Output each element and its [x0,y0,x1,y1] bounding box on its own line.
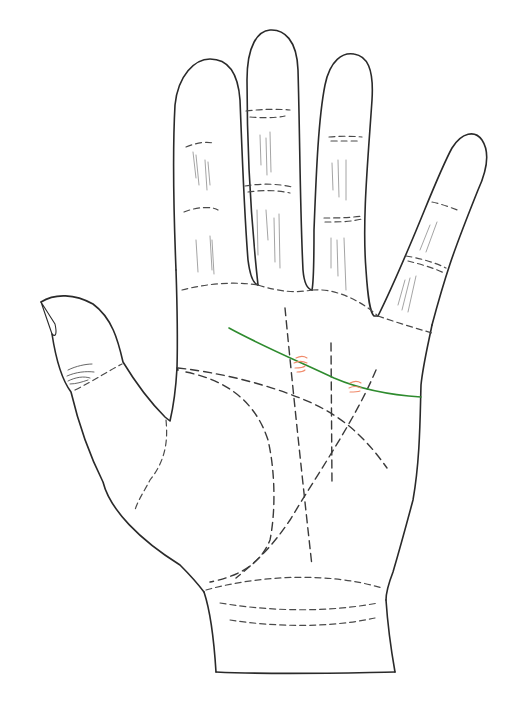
wrist-right-edge [386,600,395,672]
little-upper-crease [432,202,460,211]
sun-line [331,343,332,485]
palm-diagram [0,0,517,712]
little-lower-crease-b [408,261,444,273]
middle-upper-crease-b [250,116,285,118]
fate-line [285,308,312,566]
hand-outline [41,30,487,674]
middle-upper-crease-a [246,109,290,111]
break-marker-2 [349,382,361,393]
finger-joint-creases [184,109,460,273]
thumb-lower-edge [52,334,204,592]
thumb-mount-crease [135,420,167,510]
index-lower-crease [184,208,218,212]
heart-line-highlight [229,328,421,397]
middle-lower-crease-b [248,191,290,193]
ring-upper-crease-a [329,136,362,137]
life-line [186,372,274,582]
thumb-creases [67,364,122,390]
thumb-outline [41,296,178,421]
thumbnail [41,302,56,335]
head-line [178,368,387,468]
little-finger-base-crease [378,316,432,333]
ring-finger-outline [312,54,378,316]
wrist-bottom-edge [216,672,395,674]
finger-base-crease-left [182,283,258,290]
finger-base-crease-mid [258,285,312,292]
wrist-left-edge [204,592,216,672]
wrist-crease-1 [206,577,382,590]
wrist-crease-2 [220,603,378,610]
palm-right-edge [386,325,432,600]
ring-lower-crease-a [324,216,362,218]
wrist-crease-3 [230,618,375,625]
middle-lower-crease-a [245,184,292,187]
palm-creases [135,283,432,625]
index-upper-crease [186,142,215,147]
palm-left-edge [176,270,177,368]
index-finger-outline [173,59,258,285]
little-finger-outline [378,134,487,325]
ring-lower-crease-b [325,219,362,222]
